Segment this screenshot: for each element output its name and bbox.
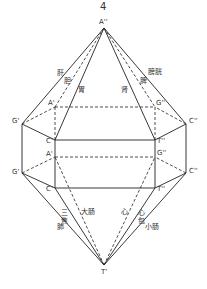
vertex-label-c2-lower: C''	[189, 168, 198, 175]
vertex-label-apex-top: A''	[99, 19, 108, 26]
vertex-label-apex-bottom: T'	[101, 269, 107, 276]
organ-label-stomach: 胃	[78, 87, 85, 94]
organ-label-liver: 肝	[57, 70, 64, 77]
organ-label-small-intestine: 小肠	[145, 224, 159, 231]
organ-label-gallbladder: 胆	[64, 78, 71, 85]
vertex-label-c1-upper: C'	[46, 138, 53, 145]
organ-label-spleen: 脾	[140, 78, 147, 85]
organ-label-kidney: 肾	[121, 87, 128, 94]
organ-label-large-intestine: 大肠	[81, 209, 95, 216]
vertex-label-g1-upper: G'	[12, 118, 19, 125]
vertex-label-c1-lower: C'	[46, 186, 53, 193]
vertex-label-g1-lower: G'	[12, 169, 19, 176]
vertex-label-t2-upper: T''	[157, 138, 165, 145]
vertex-label-t2-lower: T''	[157, 186, 165, 193]
organ-label-lung: 肺	[57, 224, 64, 231]
meridian-octahedron-diagram: 4 A'' A' G'' G' C'' C' T'' A' G'' G' C''…	[0, 0, 207, 289]
figure-number: 4	[100, 1, 106, 12]
vertex-label-c2-upper: C''	[189, 118, 198, 125]
vertex-label-a-lower: A'	[46, 151, 53, 158]
vertex-label-g2-lower: G''	[157, 150, 166, 157]
vertex-label-g2-upper: G''	[156, 100, 165, 107]
diagram-lines	[0, 0, 207, 289]
organ-label-heart: 心	[121, 209, 128, 216]
organ-label-bladder: 膀胱	[148, 69, 162, 76]
vertex-label-a-upper: A'	[48, 100, 55, 107]
